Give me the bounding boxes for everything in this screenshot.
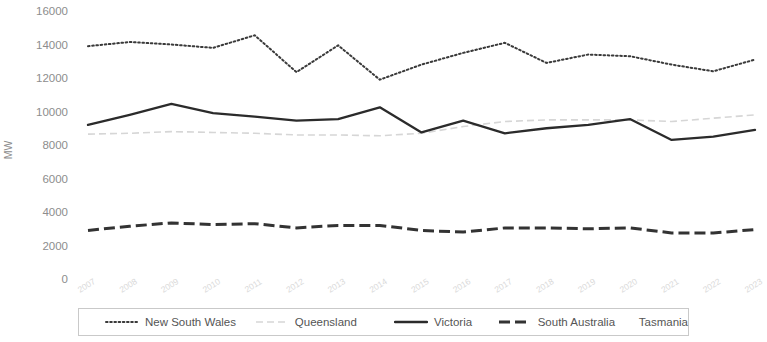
legend-item-south-australia[interactable]: South Australia <box>498 316 633 328</box>
legend-label: South Australia <box>538 316 615 328</box>
y-axis-tick-label: 0 <box>62 273 68 285</box>
x-axis-tick-label: 2014 <box>368 276 390 295</box>
x-axis-tick-label: 2013 <box>326 276 348 295</box>
x-axis-tick-label: 2017 <box>493 276 515 295</box>
series-line-tasmania <box>88 249 755 251</box>
y-axis-tick-label: 16000 <box>36 5 68 17</box>
legend-label: Queensland <box>295 316 357 328</box>
y-axis-tick-label: 14000 <box>36 39 68 51</box>
y-axis-tick-label: 2000 <box>42 240 68 252</box>
x-axis-tick-label: 2018 <box>534 276 556 295</box>
x-axis-tick-label: 2007 <box>76 276 98 295</box>
x-axis-tick-label: 2021 <box>659 276 681 295</box>
y-axis-tick-labels: 1600014000120001000080006000400020000 <box>36 5 68 285</box>
x-axis-tick-label: 2015 <box>409 276 431 295</box>
legend-item-tasmania[interactable]: Tasmania <box>633 316 688 328</box>
x-axis-tick-labels: 2007200820092010201120122013201420152016… <box>76 276 765 295</box>
y-axis-title: MW <box>2 141 14 160</box>
y-axis-tick-label: 4000 <box>42 206 68 218</box>
series-lines <box>88 35 755 251</box>
legend-label: Victoria <box>434 316 472 328</box>
legend-label: Tasmania <box>639 316 688 328</box>
legend-label: New South Wales <box>145 316 236 328</box>
x-axis-tick-label: 2010 <box>201 276 223 295</box>
x-axis-tick-label: 2012 <box>284 276 306 295</box>
x-axis-tick-label: 2020 <box>618 276 640 295</box>
series-line-new-south-wales <box>88 35 755 79</box>
x-axis-tick-label: 2022 <box>701 276 723 295</box>
x-axis-tick-label: 2008 <box>117 276 139 295</box>
series-line-victoria <box>88 104 755 140</box>
legend-line-swatch <box>105 316 139 328</box>
x-axis-tick-label: 2019 <box>576 276 598 295</box>
y-axis-tick-label: 8000 <box>42 139 68 151</box>
legend-item-queensland[interactable]: Queensland <box>255 316 382 328</box>
legend-line-swatch <box>394 316 428 328</box>
x-axis-tick-label: 2011 <box>243 276 264 294</box>
legend-line-swatch <box>498 316 532 328</box>
x-axis-tick-label: 2009 <box>159 276 181 295</box>
legend-item-new-south-wales[interactable]: New South Wales <box>105 316 245 328</box>
y-axis-tick-label: 10000 <box>36 106 68 118</box>
series-line-south-australia <box>88 223 755 233</box>
chart-canvas: 1600014000120001000080006000400020000 20… <box>0 0 767 342</box>
chart-legend: New South WalesQueenslandVictoriaSouth A… <box>78 308 689 336</box>
legend-item-victoria[interactable]: Victoria <box>394 316 488 328</box>
legend-line-swatch <box>255 316 289 328</box>
x-axis-tick-label: 2016 <box>451 276 473 295</box>
y-axis-tick-label: 12000 <box>36 72 68 84</box>
line-chart: 1600014000120001000080006000400020000 20… <box>0 0 767 342</box>
x-axis-tick-label: 2023 <box>743 276 765 295</box>
y-axis-tick-label: 6000 <box>42 173 68 185</box>
